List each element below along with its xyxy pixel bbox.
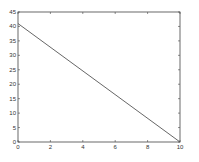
line-chart: 0246810051015202530354045 <box>0 0 199 162</box>
x-tick-label: 0 <box>16 144 20 150</box>
y-tick-label: 25 <box>9 67 16 73</box>
axis-ticks: 0246810051015202530354045 <box>9 9 184 150</box>
x-tick-label: 10 <box>177 144 184 150</box>
x-tick-label: 4 <box>81 144 85 150</box>
y-tick-label: 45 <box>9 9 16 15</box>
y-tick-label: 40 <box>9 23 16 29</box>
y-tick-label: 10 <box>9 110 16 116</box>
y-tick-label: 5 <box>13 125 17 131</box>
series-line <box>18 24 180 142</box>
x-tick-label: 6 <box>114 144 118 150</box>
x-tick-label: 2 <box>49 144 53 150</box>
y-tick-label: 35 <box>9 38 16 44</box>
y-tick-label: 15 <box>9 96 16 102</box>
y-tick-label: 30 <box>9 52 16 58</box>
plot-frame <box>18 12 180 142</box>
x-tick-label: 8 <box>146 144 150 150</box>
data-series <box>18 24 180 142</box>
plot-axes <box>18 12 180 142</box>
y-tick-label: 20 <box>9 81 16 87</box>
